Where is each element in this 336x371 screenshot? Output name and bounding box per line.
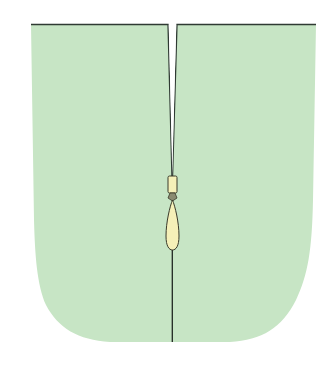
zipper-slider <box>168 176 177 193</box>
zipper-diagram <box>0 0 336 371</box>
